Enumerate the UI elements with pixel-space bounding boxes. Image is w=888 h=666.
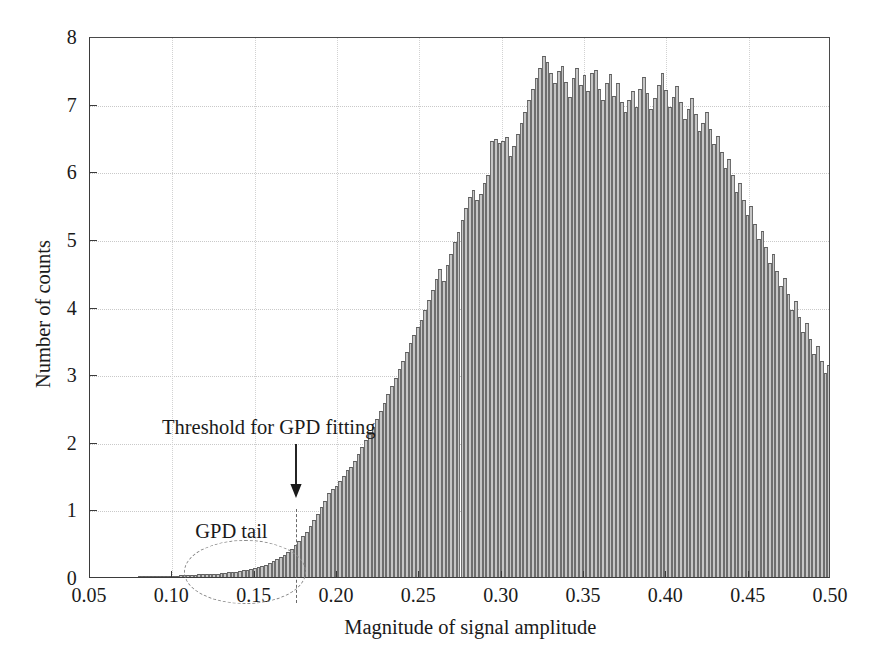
y-tick-label: 8 <box>37 26 77 49</box>
y-tick-label: 2 <box>37 431 77 454</box>
x-tick-label: 0.25 <box>401 584 436 607</box>
y-axis-title: Number of counts <box>32 239 55 387</box>
y-tick-label: 1 <box>37 499 77 522</box>
histogram-bars <box>90 38 829 577</box>
x-tick-mark <box>748 571 749 578</box>
x-axis-title: Magnitude of signal amplitude <box>344 616 596 639</box>
y-tick-mark <box>89 172 97 173</box>
down-arrow-icon <box>285 444 307 500</box>
y-tick-mark <box>89 443 97 444</box>
y-tick-label: 7 <box>37 93 77 116</box>
y-tick-mark <box>89 308 97 309</box>
plot-area <box>89 37 830 578</box>
x-tick-mark <box>501 571 502 578</box>
y-tick-mark <box>89 105 97 106</box>
y-tick-mark <box>89 240 97 241</box>
x-tick-label: 0.50 <box>813 584 848 607</box>
y-tick-mark <box>89 375 97 376</box>
x-tick-label: 0.20 <box>319 584 354 607</box>
x-tick-label: 0.35 <box>566 584 601 607</box>
x-tick-mark <box>583 571 584 578</box>
y-tick-mark <box>89 510 97 511</box>
y-tick-label: 6 <box>37 161 77 184</box>
x-tick-label: 0.05 <box>72 584 107 607</box>
x-tick-mark <box>665 571 666 578</box>
x-tick-label: 0.10 <box>154 584 189 607</box>
x-tick-mark <box>418 571 419 578</box>
histogram-figure: 012345678 0.050.100.150.200.250.300.350.… <box>0 0 888 666</box>
gpd-tail-label: GPD tail <box>195 520 267 543</box>
x-tick-mark <box>171 571 172 578</box>
threshold-annotation-label: Threshold for GPD fitting <box>162 416 376 439</box>
x-tick-label: 0.30 <box>483 584 518 607</box>
gpd-tail-ellipse <box>184 540 306 604</box>
x-tick-label: 0.45 <box>730 584 765 607</box>
x-tick-label: 0.40 <box>648 584 683 607</box>
histogram-bar <box>827 365 829 577</box>
x-tick-mark <box>336 571 337 578</box>
